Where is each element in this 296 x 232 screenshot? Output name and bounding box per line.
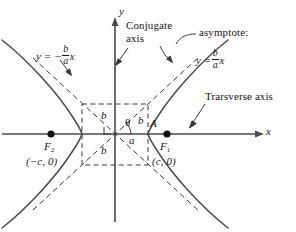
conjugate-axis-label-line1: Conjugate <box>126 19 172 32</box>
asymptote-left-equation: y = −bax <box>36 44 75 66</box>
conjugate-axis-label-line2: axis <box>126 32 172 45</box>
asymptote-left-denominator: a <box>62 56 69 66</box>
asymptote-negative-slope <box>33 58 200 212</box>
asymptote-right-denominator: a <box>212 60 219 70</box>
focus-right-label: F1 <box>160 141 170 154</box>
vertex-a-label: A <box>150 118 157 130</box>
asymptote-right-numerator: b <box>212 48 219 58</box>
transverse-axis-arrow <box>190 121 197 128</box>
x-axis-arrowhead <box>255 131 264 138</box>
focus-left-point <box>47 130 54 137</box>
asymptote-right-lhs: y = <box>196 54 211 66</box>
transverse-axis-leader <box>192 104 205 124</box>
transverse-axis-label: Trarsverse axis <box>205 91 273 103</box>
x-axis-label: x <box>266 126 271 138</box>
segment-b-bottom-label: b <box>101 145 107 157</box>
asymptote-left-lhs: y = − <box>36 50 62 62</box>
focus-right-point <box>163 130 170 137</box>
focus-right-coords: (c, 0) <box>152 156 176 168</box>
asymptote-right-variable: x <box>219 54 224 66</box>
segment-b-top-label: b <box>101 110 107 122</box>
asymptote-left-variable: x <box>70 50 75 62</box>
asymptote-right-fraction: ba <box>212 48 219 70</box>
asymptote-right-equation: y =bax <box>196 48 224 70</box>
segment-b-inner-label: b <box>138 115 144 127</box>
hyperbola-figure: y x Conjugate axis asymptote: y =bax y =… <box>0 0 296 232</box>
asymptote-caption: asymptote: <box>199 27 248 39</box>
segment-a-label: a <box>129 135 135 147</box>
focus-left-name: F <box>44 140 51 152</box>
focus-left-subscript: 2 <box>51 146 55 154</box>
asymptote-left-arrow <box>66 69 72 76</box>
y-axis-label: y <box>119 6 124 18</box>
focus-right-subscript: 1 <box>167 146 171 154</box>
focus-left-coords: (−c, 0) <box>26 156 57 168</box>
asymptote-left-numerator: b <box>62 44 69 54</box>
right-angle-marker <box>104 127 111 134</box>
conjugate-axis-leader-arrow <box>116 59 122 66</box>
y-axis-arrowhead <box>112 17 119 26</box>
focus-left-label: F2 <box>44 141 54 154</box>
theta-angle-label: θ <box>125 117 130 129</box>
asymptote-left-fraction: ba <box>62 44 69 66</box>
conjugate-axis-label: Conjugate axis <box>126 19 172 45</box>
asymptote-positive-slope <box>33 56 200 210</box>
asymptote-caption-leader <box>176 34 196 44</box>
focus-right-name: F <box>160 140 167 152</box>
